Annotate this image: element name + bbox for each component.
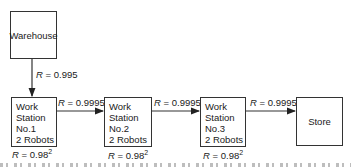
work-station-1-label: Work Station No.1 2 Robots [16,101,54,145]
r-symbol: R [250,97,257,108]
r-base: 0.98 [30,149,49,160]
r-symbol: R [108,150,115,161]
edge-reliability-warehouse-station1: R = 0.995 [36,69,77,80]
r-value: = 0.9995 [260,97,297,108]
r-value: = 0.995 [46,69,78,80]
store-label: Store [297,98,342,145]
station3-reliability: R = 0.982 [203,149,243,161]
station2-reliability: R = 0.982 [108,149,148,161]
label-line: Work [109,101,147,112]
label-line: Station [16,112,54,123]
label-line: 2 Robots [16,134,54,145]
label-line: 2 Robots [109,134,147,145]
r-exponent: 2 [239,149,243,156]
label-line: No.3 [205,123,243,134]
r-base: 0.98 [126,150,145,161]
r-value: = 0.9995 [164,97,201,108]
work-station-2-node: Work Station No.2 2 Robots [104,97,152,147]
edge-reliability-station1-station2: R = 0.9995 [58,97,105,108]
work-station-2-label: Work Station No.2 2 Robots [109,101,147,145]
label-line: Station [205,112,243,123]
edge-reliability-station2-station3: R = 0.9995 [154,97,201,108]
figure-caption-cutoff [0,163,351,167]
station1-reliability: R = 0.982 [12,148,52,160]
label-line: Station [109,112,147,123]
r-symbol: R [203,150,210,161]
r-base: 0.98 [221,150,240,161]
label-line: 2 Robots [205,134,243,145]
r-symbol: R [154,97,161,108]
label-line: No.1 [16,123,54,134]
edge-reliability-station3-store: R = 0.9995 [250,97,297,108]
r-symbol: R [36,69,43,80]
label-line: Work [16,101,54,112]
label-line: Work [205,101,243,112]
store-node: Store [296,97,343,146]
work-station-3-node: Work Station No.3 2 Robots [200,97,246,147]
work-station-3-label: Work Station No.3 2 Robots [205,101,243,145]
r-symbol: R [58,97,65,108]
label-line: No.2 [109,123,147,134]
work-station-1-node: Work Station No.1 2 Robots [11,97,57,147]
warehouse-node: Warehouse [10,11,57,59]
r-exponent: 2 [144,149,148,156]
r-value: = 0.9995 [68,97,105,108]
warehouse-label: Warehouse [11,12,56,58]
r-exponent: 2 [48,148,52,155]
r-symbol: R [12,149,19,160]
